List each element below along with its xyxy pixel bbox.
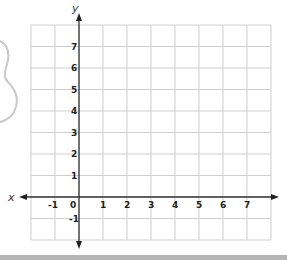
x-tick-label: 0: [70, 200, 76, 210]
x-tick-label: 2: [124, 200, 130, 210]
x-tick-label: 6: [220, 200, 226, 210]
y-axis-label: y: [71, 2, 79, 15]
y-tick-label: 1: [71, 171, 77, 181]
y-tick-label: 2: [71, 149, 77, 159]
x-tick-label: 1: [100, 200, 106, 210]
y-tick-label: 7: [71, 42, 77, 52]
y-tick-label: 3: [71, 128, 77, 138]
x-axis-label: x: [7, 191, 15, 204]
x-tick-label: 4: [172, 200, 178, 210]
x-tick-label: 3: [148, 200, 154, 210]
y-tick-label: 4: [71, 106, 77, 116]
bottom-divider: [0, 255, 287, 260]
y-axis-down-arrow-icon: [76, 241, 82, 249]
x-tick-label: -1: [48, 200, 58, 210]
x-tick-labels: -101234567: [48, 200, 250, 210]
y-tick-label: -1: [69, 214, 79, 224]
coordinate-plane: y x -101234567 7654321-1: [0, 0, 287, 260]
numeral-eight-decoration: [0, 40, 17, 123]
x-tick-label: 7: [244, 200, 250, 210]
y-tick-label: 5: [71, 85, 77, 95]
x-tick-label: 5: [196, 200, 202, 210]
x-axis-right-arrow-icon: [271, 194, 279, 200]
y-tick-label: 6: [71, 63, 77, 73]
x-axis-left-arrow-icon: [19, 194, 27, 200]
